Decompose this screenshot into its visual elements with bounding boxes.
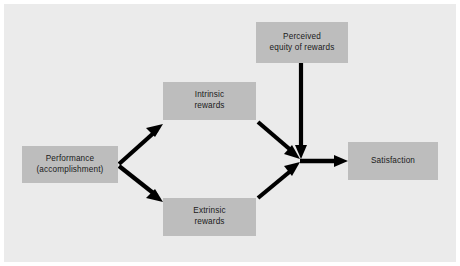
node-extrinsic-line1: Extrinsic	[193, 206, 225, 217]
node-extrinsic-line2: rewards	[193, 217, 225, 228]
node-equity-line1: Perceived	[270, 32, 335, 43]
node-equity-line2: equity of rewards	[270, 43, 335, 54]
node-intrinsic-rewards[interactable]: Intrinsic rewards	[163, 82, 256, 120]
node-satisfaction-line1: Satisfaction	[371, 156, 415, 167]
node-perceived-equity-of-rewards[interactable]: Perceived equity of rewards	[256, 22, 348, 63]
node-performance-line1: Performance	[36, 154, 103, 165]
node-intrinsic-line1: Intrinsic	[194, 90, 224, 101]
diagram-canvas: Performance (accomplishment) Intrinsic r…	[0, 0, 460, 266]
node-intrinsic-line2: rewards	[194, 101, 224, 112]
node-performance[interactable]: Performance (accomplishment)	[22, 146, 118, 183]
node-satisfaction[interactable]: Satisfaction	[348, 142, 438, 180]
node-extrinsic-rewards[interactable]: Extrinsic rewards	[163, 198, 256, 236]
node-performance-line2: (accomplishment)	[36, 165, 103, 176]
